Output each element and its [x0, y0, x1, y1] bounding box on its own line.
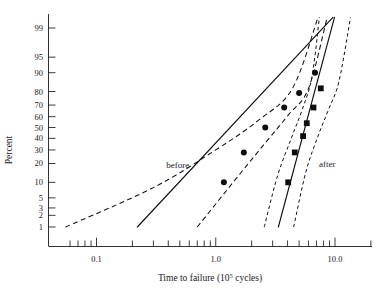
y-tick-label: 30: [35, 145, 44, 155]
data-point-after: [318, 85, 324, 91]
data-markers: [221, 70, 324, 186]
y-tick-label: 90: [35, 68, 44, 78]
data-point-before: [241, 149, 247, 155]
y-axis-title: Percent: [4, 135, 14, 164]
data-point-before: [221, 179, 227, 185]
y-axis-tick-labels: 12351020304050607080909599: [35, 23, 44, 232]
y-tick-label: 3: [39, 203, 43, 213]
data-point-before: [281, 104, 287, 110]
series-annotation-before: before: [166, 160, 189, 170]
data-point-after: [300, 133, 306, 139]
x-tick-label: 10.0: [328, 254, 343, 264]
y-axis-ticks: [49, 28, 56, 227]
data-point-after: [304, 120, 310, 126]
x-axis-ticks: [70, 238, 371, 247]
y-tick-label: 50: [35, 123, 44, 133]
y-tick-label: 95: [35, 52, 44, 62]
data-point-after: [311, 105, 317, 111]
x-tick-label: 1.0: [210, 254, 221, 264]
y-tick-label: 70: [35, 100, 44, 110]
y-tick-label: 40: [35, 133, 44, 143]
x-axis-title: Time to failure (105 cycles): [158, 272, 262, 285]
ci-band-after-upper: [294, 17, 351, 227]
plot-canvas: 12351020304050607080909599 0.11.010.0 be…: [0, 0, 379, 296]
y-tick-label: 20: [35, 158, 44, 168]
x-tick-label: 0.1: [91, 254, 102, 264]
data-point-after: [285, 179, 291, 185]
probability-plot: 12351020304050607080909599 0.11.010.0 be…: [0, 0, 379, 296]
data-point-before: [296, 90, 302, 96]
y-tick-label: 5: [39, 193, 43, 203]
ci-band-before-lower: [66, 17, 318, 227]
y-tick-label: 99: [35, 23, 44, 33]
y-tick-label: 60: [35, 112, 44, 122]
series-annotation-after: after: [319, 159, 335, 169]
y-tick-label: 1: [39, 222, 43, 232]
data-point-after: [292, 150, 298, 156]
y-tick-label: 80: [35, 87, 44, 97]
fit-line-before: [137, 17, 333, 227]
data-point-before: [262, 125, 268, 131]
ci-band-after-lower: [264, 17, 319, 227]
y-tick-label: 10: [35, 177, 44, 187]
data-point-before: [312, 70, 318, 76]
x-axis-tick-labels: 0.11.010.0: [91, 254, 342, 264]
